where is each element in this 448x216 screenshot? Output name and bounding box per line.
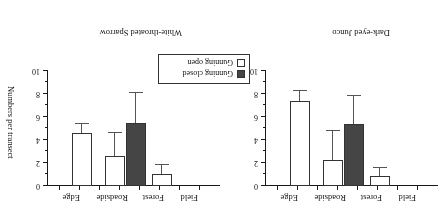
x-tick: [199, 186, 200, 190]
bar-junco-roadside-closed: [344, 124, 364, 186]
panel-title-junco: Dark-eyed Junco: [332, 28, 390, 38]
y-tick-label-0: 0: [36, 182, 40, 190]
y-tick-major: [43, 70, 48, 71]
y-tick-major: [261, 162, 266, 163]
bar-sparrow-forest-open: [152, 175, 172, 187]
error-cap-junco-roadside-closed: [347, 95, 361, 96]
y-tick-minor: [263, 151, 266, 152]
x-tick: [79, 186, 80, 190]
legend-box: Gunning closed Gunning open: [158, 54, 250, 84]
y-tick-label-8: 8: [254, 90, 258, 98]
legend-swatch-open-icon: [237, 59, 245, 67]
error-bar-sparrow-forest-open: [162, 165, 163, 174]
y-tick-minor: [45, 151, 48, 152]
rotated-figure: Field Forest Roadside Edge 0 2 4: [0, 0, 448, 216]
y-tick-label-4: 4: [36, 136, 40, 144]
y-tick-major: [43, 116, 48, 117]
x-label-roadside: Roadside: [96, 193, 128, 202]
x-label-edge: Edge: [281, 193, 298, 202]
y-tick-label-0: 0: [254, 182, 258, 190]
bar-sparrow-edge-open: [72, 133, 92, 186]
y-tick-major: [261, 139, 266, 140]
x-tick: [119, 186, 120, 190]
error-bar-junco-roadside-closed: [354, 96, 355, 124]
y-tick-minor: [263, 82, 266, 83]
bar-junco-edge-open: [290, 101, 310, 186]
y-tick-label-10: 10: [250, 67, 258, 75]
x-label-field: Field: [399, 193, 416, 202]
y-tick-label-8: 8: [36, 90, 40, 98]
error-cap-junco-edge-open: [293, 90, 307, 91]
figure-root: Field Forest Roadside Edge 0 2 4: [0, 0, 448, 216]
error-cap-sparrow-edge-open: [75, 123, 89, 124]
x-tick: [277, 186, 278, 190]
x-tick: [99, 186, 100, 190]
y-tick-label-6: 6: [36, 113, 40, 121]
error-bar-sparrow-roadside-open: [115, 133, 116, 156]
y-tick-minor: [263, 128, 266, 129]
y-tick-minor: [45, 105, 48, 106]
y-axis-label: Numbers per transect: [6, 86, 16, 159]
plot-area-sparrow: Field Forest Roadside Edge 0 2 4 6: [48, 70, 208, 186]
error-bar-junco-forest-open: [380, 168, 381, 176]
x-tick: [179, 186, 180, 190]
y-tick-minor: [45, 82, 48, 83]
y-tick-label-4: 4: [254, 136, 258, 144]
y-tick-label-2: 2: [254, 159, 258, 167]
y-tick-major: [261, 116, 266, 117]
legend-label-open: Gunning open: [187, 59, 233, 68]
x-label-forest: Forest: [143, 193, 164, 202]
y-tick-major: [43, 93, 48, 94]
panel-white-throated-sparrow: Field Forest Roadside Edge 0 2 4 6: [0, 0, 224, 216]
error-bar-junco-roadside-open: [333, 131, 334, 160]
legend-swatch-closed-icon: [237, 70, 245, 78]
x-label-forest: Forest: [361, 193, 382, 202]
y-tick-label-6: 6: [254, 113, 258, 121]
legend-item-closed: Gunning closed: [163, 69, 245, 79]
y-tick-major: [261, 185, 266, 186]
y-tick-major: [43, 139, 48, 140]
bar-sparrow-roadside-closed: [126, 123, 146, 186]
x-tick: [397, 186, 398, 190]
error-cap-sparrow-roadside-open: [108, 132, 122, 133]
x-tick: [297, 186, 298, 190]
y-tick-major: [43, 185, 48, 186]
x-label-roadside: Roadside: [314, 193, 346, 202]
x-tick: [377, 186, 378, 190]
plot-area-junco: Field Forest Roadside Edge 0 2 4: [266, 70, 426, 186]
error-bar-junco-edge-open: [300, 91, 301, 101]
y-tick-major: [261, 93, 266, 94]
x-label-field: Field: [181, 193, 198, 202]
x-tick: [59, 186, 60, 190]
y-tick-label-10: 10: [32, 67, 40, 75]
legend-item-open: Gunning open: [163, 58, 245, 68]
y-tick-major: [43, 162, 48, 163]
panel-title-sparrow: White-throated Sparrow: [100, 28, 182, 38]
error-cap-sparrow-forest-open: [155, 164, 169, 165]
x-tick: [159, 186, 160, 190]
panel-dark-eyed-junco: Field Forest Roadside Edge 0 2 4: [224, 0, 448, 216]
x-tick: [357, 186, 358, 190]
error-cap-junco-forest-open: [373, 167, 387, 168]
y-tick-minor: [263, 105, 266, 106]
x-tick: [317, 186, 318, 190]
bar-junco-roadside-open: [323, 160, 343, 186]
error-cap-junco-roadside-open: [326, 130, 340, 131]
x-tick: [337, 186, 338, 190]
error-bar-sparrow-edge-open: [82, 124, 83, 133]
x-tick: [139, 186, 140, 190]
x-tick: [417, 186, 418, 190]
y-tick-label-2: 2: [36, 159, 40, 167]
y-tick-minor: [263, 174, 266, 175]
error-cap-sparrow-roadside-closed: [129, 92, 143, 93]
bar-junco-forest-open: [370, 176, 390, 186]
bar-sparrow-roadside-open: [105, 156, 125, 186]
y-tick-major: [261, 70, 266, 71]
y-tick-minor: [45, 174, 48, 175]
x-label-edge: Edge: [63, 193, 80, 202]
error-bar-sparrow-roadside-closed: [136, 93, 137, 123]
y-tick-minor: [45, 128, 48, 129]
legend-label-closed: Gunning closed: [183, 70, 233, 79]
